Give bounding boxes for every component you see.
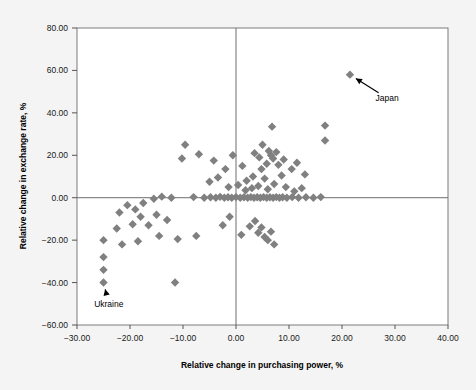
x-tick-label: 30.00 [384, 333, 406, 343]
plot-area-background [77, 28, 448, 325]
y-tick-label: 0.00 [51, 193, 68, 203]
y-tick-label: −40.00 [42, 278, 69, 288]
y-axis-title: Relative change in exchange rate, % [18, 102, 28, 249]
y-tick-label: 60.00 [47, 65, 69, 75]
scatter-plot-figure: −30.00−20.00−10.000.0010.0020.0030.0040.… [0, 0, 476, 390]
y-tick-label: 80.00 [47, 23, 69, 33]
x-tick-label: 10.00 [278, 333, 300, 343]
y-tick-label: −60.00 [42, 320, 69, 330]
x-axis-title: Relative change in purchasing power, % [181, 360, 343, 370]
x-tick-label: 20.00 [331, 333, 353, 343]
annotation-label: Ukraine [94, 299, 124, 309]
x-tick-label: 40.00 [437, 333, 459, 343]
y-tick-label: 20.00 [47, 150, 69, 160]
y-tick-label: −20.00 [42, 235, 69, 245]
y-tick-label: 40.00 [47, 108, 69, 118]
annotation-label: Japan [375, 93, 398, 103]
x-tick-label: −30.00 [64, 333, 91, 343]
x-tick-label: 0.00 [228, 333, 245, 343]
x-tick-label: −20.00 [117, 333, 144, 343]
x-tick-label: −10.00 [170, 333, 197, 343]
